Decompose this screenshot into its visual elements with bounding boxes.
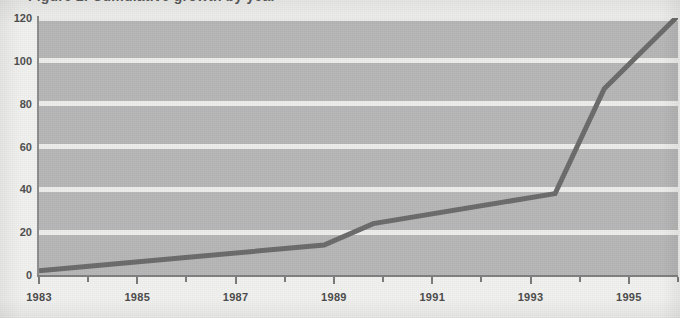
y-tick-label-20: 20 [0, 226, 32, 238]
x-tick-1989 [333, 277, 335, 284]
x-tick-1985 [136, 277, 138, 284]
x-tick-1984 [87, 277, 89, 282]
y-tick-label-80: 80 [0, 98, 32, 110]
y-tick-label-60: 60 [0, 141, 32, 153]
x-tick-1986 [185, 277, 187, 282]
x-tick-label-1989: 1989 [304, 291, 364, 303]
x-tick-label-1991: 1991 [402, 291, 462, 303]
x-tick-1983 [38, 277, 40, 284]
chart-title-text: Figure 2. Cumulative growth by year [28, 0, 276, 4]
x-tick-1996 [677, 277, 679, 282]
x-tick-1987 [235, 277, 237, 284]
x-tick-label-1983: 1983 [9, 291, 69, 303]
chart-title-clipped: Figure 2. Cumulative growth by year [0, 0, 680, 9]
y-axis-tick-labels: 020406080100120 [0, 0, 680, 318]
line-chart: Figure 2. Cumulative growth by year 0204… [0, 0, 680, 318]
x-tick-1994 [579, 277, 581, 282]
x-tick-label-1995: 1995 [599, 291, 659, 303]
x-tick-1992 [480, 277, 482, 282]
y-tick-label-40: 40 [0, 183, 32, 195]
x-tick-1995 [628, 277, 630, 284]
x-tick-label-1985: 1985 [107, 291, 167, 303]
x-tick-1990 [382, 277, 384, 282]
x-tick-1993 [530, 277, 532, 284]
x-tick-1988 [284, 277, 286, 282]
y-tick-label-0: 0 [0, 269, 32, 281]
x-tick-1991 [431, 277, 433, 284]
x-tick-label-1987: 1987 [206, 291, 266, 303]
y-tick-label-120: 120 [0, 12, 32, 24]
x-tick-label-1993: 1993 [501, 291, 561, 303]
y-tick-label-100: 100 [0, 55, 32, 67]
